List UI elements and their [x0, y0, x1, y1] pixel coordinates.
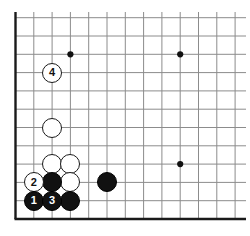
stone-black-stone-b[interactable]: [97, 172, 117, 192]
stone-black-stone-c[interactable]: [60, 191, 80, 211]
stone-label-move-3: 3: [49, 195, 55, 206]
stone-move-3[interactable]: 3: [42, 191, 62, 211]
stone-move-1[interactable]: 1: [24, 191, 44, 211]
stone-layer: 2134: [0, 0, 250, 236]
stone-white-stone-a[interactable]: [42, 118, 62, 138]
stone-white-stone-d[interactable]: [60, 172, 80, 192]
stone-black-stone-a[interactable]: [42, 172, 62, 192]
stone-white-stone-b[interactable]: [42, 154, 62, 174]
stone-label-move-2: 2: [31, 177, 37, 188]
stone-move-4[interactable]: 4: [42, 63, 62, 83]
stone-label-move-1: 1: [31, 195, 37, 206]
stone-move-2[interactable]: 2: [24, 172, 44, 192]
stone-white-stone-c[interactable]: [60, 154, 80, 174]
go-board-diagram: 2134: [0, 0, 250, 236]
stone-label-move-4: 4: [49, 67, 55, 78]
